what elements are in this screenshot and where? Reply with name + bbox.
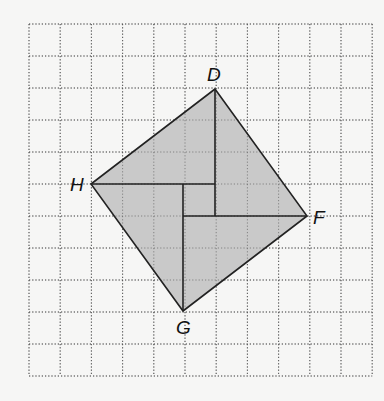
vertex-label-h: H xyxy=(70,174,84,195)
vertex-label-d: D xyxy=(207,64,221,85)
square-dfgh-diagram: D H F G xyxy=(0,0,384,401)
square-dfgh xyxy=(91,89,307,311)
vertex-label-g: G xyxy=(176,317,191,338)
vertex-label-f: F xyxy=(313,207,326,228)
